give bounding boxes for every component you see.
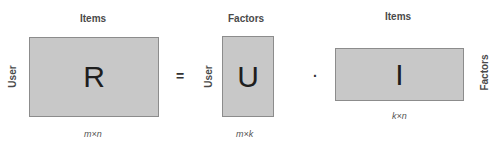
- matrix-i: I: [335, 48, 464, 101]
- matrix-r-letter: R: [83, 60, 105, 94]
- r-top-label: Items: [80, 13, 106, 24]
- u-dims: m×k: [236, 129, 253, 139]
- i-top-label: Items: [385, 11, 411, 22]
- matrix-i-letter: I: [395, 58, 403, 92]
- r-dims: m×n: [84, 129, 102, 139]
- matrix-u: U: [222, 36, 274, 117]
- matrix-r: R: [29, 37, 159, 117]
- r-side-label: User: [7, 62, 18, 92]
- i-side-label: Factors: [479, 53, 490, 93]
- dot-operator: ·: [313, 68, 318, 84]
- equals-operator: =: [176, 68, 184, 84]
- u-side-label: User: [203, 62, 214, 92]
- u-top-label: Factors: [228, 13, 264, 24]
- i-dims: k×n: [392, 111, 407, 121]
- matrix-u-letter: U: [237, 60, 259, 94]
